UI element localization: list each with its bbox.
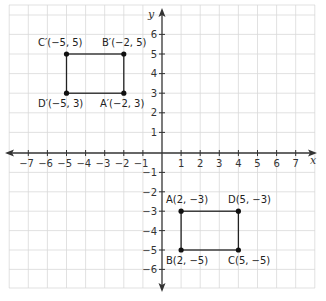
coordinate-plane: −7 −6 −5 −4 −3 −2 −1 1 2 3 4 5 6 7 x — [0, 0, 326, 301]
x-tick-label: −7 — [19, 158, 34, 169]
x-tick-label: −3 — [96, 158, 111, 169]
y-tick-label: −5 — [142, 245, 157, 256]
x-axis-label: x — [310, 154, 317, 167]
label-a-prime: A′(−2, 3) — [100, 98, 144, 109]
y-tick-label: 6 — [151, 29, 157, 40]
point-c — [236, 247, 241, 252]
y-axis-label: y — [147, 8, 155, 21]
x-tick-label: 3 — [216, 158, 222, 169]
y-axis: 6 5 4 3 2 1 −1 −2 −3 −4 −5 −6 y — [142, 8, 165, 292]
label-b: B(2, −5) — [166, 255, 208, 266]
point-d-prime — [64, 91, 69, 96]
point-c-prime — [64, 51, 69, 56]
x-tick-label: 5 — [254, 158, 260, 169]
x-tick-label: 7 — [293, 158, 299, 169]
y-tick-label: 5 — [151, 49, 157, 60]
label-d: D(5, −3) — [228, 194, 271, 205]
y-tick-label: −1 — [142, 167, 157, 178]
x-tick-label: −2 — [115, 158, 130, 169]
x-tick-label: 6 — [273, 158, 279, 169]
x-tick-label: 4 — [235, 158, 241, 169]
y-tick-label: −3 — [142, 206, 157, 217]
label-d-prime: D′(−5, 3) — [38, 98, 83, 109]
y-tick-label: 3 — [151, 88, 157, 99]
point-b — [179, 247, 184, 252]
rectangle-a-prime-b-prime-c-prime-d-prime: C′(−5, 5) B′(−2, 5) D′(−5, 3) A′(−2, 3) — [38, 37, 146, 109]
y-tick-label: 4 — [151, 68, 157, 79]
y-tick-label: −4 — [142, 226, 157, 237]
point-b-prime — [121, 51, 126, 56]
x-tick-label: −4 — [76, 158, 91, 169]
x-axis: −7 −6 −5 −4 −3 −2 −1 1 2 3 4 5 6 7 x — [5, 150, 317, 170]
point-a-prime — [121, 91, 126, 96]
label-b-prime: B′(−2, 5) — [102, 37, 146, 48]
x-tick-label: 2 — [197, 158, 203, 169]
rectangle-abcd: A(2, −3) D(5, −3) B(2, −5) C(5, −5) — [166, 194, 271, 266]
point-d — [236, 209, 241, 214]
y-tick-label: −6 — [142, 264, 157, 275]
x-tick-label: −6 — [38, 158, 53, 169]
y-tick-label: 2 — [151, 107, 157, 118]
label-c: C(5, −5) — [228, 255, 270, 266]
x-tick-label: −5 — [57, 158, 72, 169]
label-c-prime: C′(−5, 5) — [38, 37, 83, 48]
point-a — [179, 209, 184, 214]
y-tick-label: 1 — [151, 127, 157, 138]
label-a: A(2, −3) — [166, 194, 208, 205]
y-tick-label: −2 — [142, 187, 157, 198]
x-tick-label: 1 — [178, 158, 184, 169]
